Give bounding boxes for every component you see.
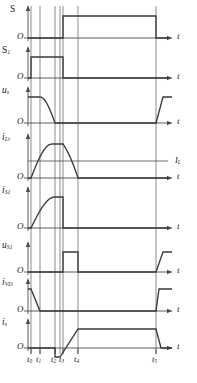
waveform-canvas bbox=[0, 0, 197, 383]
row-is1-value-arrow bbox=[26, 186, 30, 192]
time-tick-label-0: t0 bbox=[27, 355, 32, 364]
row-us1-axis-arrow bbox=[167, 270, 172, 274]
row-ivd-zero-label: O bbox=[17, 305, 24, 314]
row-isrc-value-arrow bbox=[26, 318, 30, 324]
row-ilr-time-axis-label: t bbox=[177, 172, 180, 181]
waveform-layer bbox=[28, 16, 172, 357]
row-isrc-waveform bbox=[28, 329, 172, 357]
row-is1-signal-label: iS1 bbox=[2, 186, 11, 196]
row-isrc-time-axis-label: t bbox=[177, 342, 180, 351]
row-s-signal-label: S bbox=[10, 5, 15, 15]
row-s1-signal-label: S1 bbox=[2, 46, 10, 56]
row-is1-waveform bbox=[28, 197, 168, 228]
row-s-zero-label: O bbox=[17, 32, 24, 41]
row-isrc-zero-label: O bbox=[17, 342, 24, 351]
row-us1-zero-label: O bbox=[17, 266, 24, 275]
row-ilr-signal-label: iLr bbox=[2, 133, 10, 143]
row-us-time-axis-label: t bbox=[177, 117, 180, 126]
time-tick-label-1: t1 bbox=[36, 355, 41, 364]
row-us-signal-label: us bbox=[2, 86, 9, 96]
row-s-waveform bbox=[28, 16, 168, 38]
row-ilr-value-arrow bbox=[26, 133, 30, 139]
row-us1-time-axis-label: t bbox=[177, 266, 180, 275]
gridline-layer bbox=[31, 6, 156, 354]
row-us-waveform bbox=[28, 97, 172, 123]
row-us1-waveform bbox=[28, 252, 172, 272]
row-ilr-zero-label: O bbox=[17, 172, 24, 181]
row-ivd-time-axis-label: t bbox=[177, 305, 180, 314]
row-ivd-signal-label: iVD bbox=[2, 278, 12, 288]
row-s1-time-axis-label: t bbox=[177, 72, 180, 81]
row-us-zero-label: O bbox=[17, 117, 24, 126]
tick-mark-layer bbox=[31, 349, 156, 354]
row-ivd-axis-arrow bbox=[167, 309, 172, 313]
row-s-value-arrow bbox=[26, 5, 30, 11]
row-us1-value-arrow bbox=[26, 241, 30, 247]
time-tick-label-2: t2 bbox=[51, 355, 56, 364]
row-is1-zero-label: O bbox=[17, 222, 24, 231]
reference-label-I_L: IL bbox=[175, 156, 181, 165]
row-s1-zero-label: O bbox=[17, 72, 24, 81]
time-tick-label-4: t4 bbox=[74, 355, 79, 364]
row-us1-signal-label: uS1 bbox=[2, 241, 13, 251]
time-tick-label-3: t3 bbox=[59, 355, 64, 364]
row-s1-value-arrow bbox=[26, 46, 30, 52]
row-us-axis-arrow bbox=[167, 121, 172, 125]
row-us-value-arrow bbox=[26, 86, 30, 92]
row-ivd-waveform bbox=[28, 289, 172, 311]
row-ivd-value-arrow bbox=[26, 278, 30, 284]
row-s-time-axis-label: t bbox=[177, 32, 180, 41]
waveform-figure: SOtS1OtusOtiLrOtiS1OtuS1OtiVDOtisOtILt0t… bbox=[0, 0, 197, 383]
row-isrc-signal-label: is bbox=[2, 318, 7, 328]
row-s1-waveform bbox=[28, 57, 168, 78]
row-is1-time-axis-label: t bbox=[177, 222, 180, 231]
time-tick-label-5: t5 bbox=[152, 355, 157, 364]
